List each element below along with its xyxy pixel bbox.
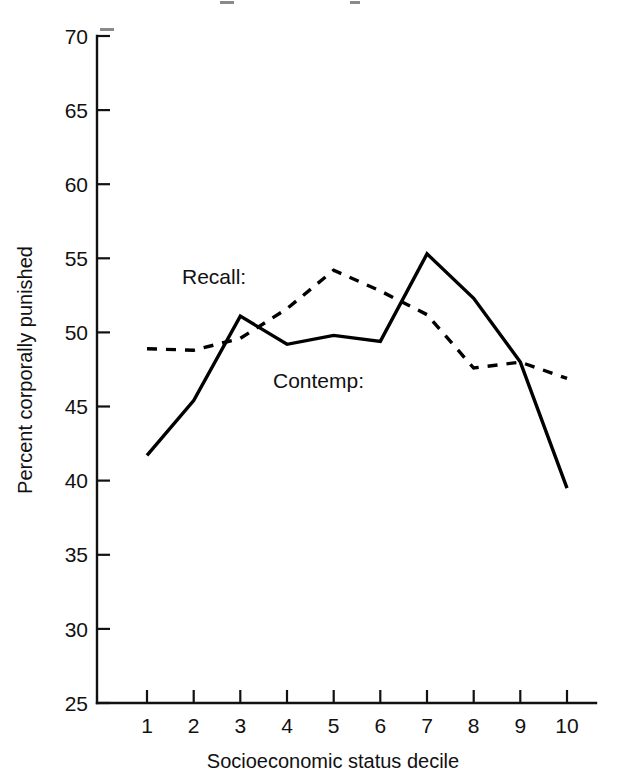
y-tick-label: 70	[65, 25, 88, 48]
x-tick-label: 7	[421, 714, 433, 737]
y-tick-label: 30	[65, 618, 88, 641]
series-label-recall: Recall:	[182, 265, 246, 288]
page-edge-artifact-2	[350, 1, 360, 4]
x-axis-tick-labels: 1 2 3 4 5 6 7 8 9 10	[141, 714, 579, 737]
x-tick-label: 5	[328, 714, 340, 737]
y-tick-label: 65	[65, 99, 88, 122]
x-tick-label: 6	[374, 714, 386, 737]
x-tick-label: 9	[514, 714, 526, 737]
x-tick-label: 8	[468, 714, 480, 737]
y-axis-tick-labels: 25 30 35 40 45 50 55 60 65 70	[65, 25, 88, 715]
y-tick-label: 50	[65, 321, 88, 344]
chart-svg: 25 30 35 40 45 50 55 60 65 70 1	[0, 0, 620, 784]
x-tick-label: 1	[141, 714, 153, 737]
y-tick-label: 45	[65, 395, 88, 418]
y-tick-label: 25	[65, 692, 88, 715]
y-tick-label: 55	[65, 247, 88, 270]
y-tick-label: 40	[65, 469, 88, 492]
page-edge-artifact-3	[100, 28, 114, 31]
x-tick-label: 10	[555, 714, 578, 737]
series-label-contemp: Contemp:	[273, 369, 364, 392]
y-axis-title: Percent corporally punished	[14, 246, 36, 494]
y-axis-ticks	[97, 36, 110, 703]
y-tick-label: 35	[65, 543, 88, 566]
x-tick-label: 4	[281, 714, 293, 737]
y-tick-label: 60	[65, 173, 88, 196]
x-tick-label: 2	[188, 714, 200, 737]
x-tick-label: 3	[234, 714, 246, 737]
x-axis-ticks	[147, 690, 567, 703]
page-edge-artifact-1	[220, 1, 234, 4]
x-axis-title: Socioeconomic status decile	[207, 750, 459, 772]
chart-figure: 25 30 35 40 45 50 55 60 65 70 1	[0, 0, 620, 784]
